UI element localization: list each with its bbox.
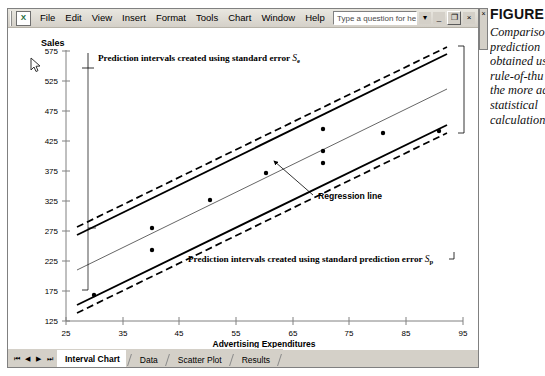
data-point (381, 131, 385, 135)
svg-text:85: 85 (402, 329, 411, 338)
sheet-nav-buttons: ⏮ ◀ ▶ ⏭ (8, 350, 57, 367)
data-point (321, 149, 325, 153)
mouse-cursor-icon (30, 57, 42, 73)
caption-line: the more ac (490, 83, 545, 98)
lower-label-leader (449, 252, 454, 259)
svg-text:35: 35 (119, 329, 128, 338)
menu-item-chart[interactable]: Chart (223, 11, 256, 25)
caption-line: Compariso (490, 25, 545, 40)
excel-app-icon[interactable]: X (16, 11, 31, 26)
svg-text:45: 45 (175, 329, 184, 338)
svg-text:25: 25 (62, 329, 71, 338)
menu-bar-right-group: Type a question for help ▾ _ ❐ × (333, 11, 478, 25)
svg-text:375: 375 (45, 167, 59, 176)
excel-window: X File Edit View Insert Format Tools Cha… (7, 8, 479, 368)
figure-caption: FIGURE Compariso prediction obtained us … (490, 6, 545, 127)
upper-interval-annotation-text: Prediction intervals created using stand… (98, 53, 292, 63)
next-sheet-icon[interactable]: ▶ (33, 352, 44, 365)
data-point (264, 171, 268, 175)
x-axis-ticks: 25 35 45 55 65 75 85 95 (62, 317, 468, 338)
sheet-tab-scatter-plot[interactable]: Scatter Plot (171, 353, 228, 367)
menu-item-window[interactable]: Window (256, 11, 300, 25)
tab-separator (164, 353, 171, 367)
svg-text:575: 575 (45, 47, 59, 56)
sheet-tab-data[interactable]: Data (133, 353, 164, 367)
menu-item-help[interactable]: Help (300, 11, 330, 25)
se-subscript: e (297, 57, 300, 64)
menu-item-tools[interactable]: Tools (191, 11, 223, 25)
chart-sheet-canvas[interactable]: Sales 125 175 225 275 325 375 425 475 52… (8, 28, 478, 348)
tab-bar-filler (283, 349, 478, 367)
restore-window-button[interactable]: ❐ (447, 11, 461, 25)
ask-a-question-input[interactable]: Type a question for help (333, 11, 417, 25)
regression-line (77, 89, 447, 270)
first-sheet-icon[interactable]: ⏮ (11, 352, 22, 365)
sheet-tabs: Interval Chart Data Scatter Plot Results (57, 350, 283, 367)
tab-separator (228, 353, 235, 367)
regression-line-annotation: Regression line (318, 191, 382, 201)
svg-text:55: 55 (232, 329, 241, 338)
sheet-tab-bar: ⏮ ◀ ▶ ⏭ Interval Chart Data Scatter Plot… (8, 348, 478, 367)
close-window-button[interactable]: × (463, 12, 475, 24)
interval-chart-plot[interactable]: Sales 125 175 225 275 325 375 425 475 52… (8, 28, 478, 348)
svg-text:525: 525 (45, 77, 59, 86)
data-point (321, 127, 325, 131)
caption-line: obtained us (490, 54, 545, 69)
svg-text:125: 125 (45, 317, 59, 326)
menu-bar: X File Edit View Insert Format Tools Cha… (8, 9, 478, 28)
menu-item-file[interactable]: File (35, 11, 60, 25)
menu-item-format[interactable]: Format (151, 11, 191, 25)
tab-separator (276, 353, 283, 367)
menu-item-view[interactable]: View (87, 11, 117, 25)
data-point (150, 226, 154, 230)
upper-bracket (88, 68, 96, 228)
svg-text:425: 425 (45, 137, 59, 146)
regression-callout-arrow (274, 161, 313, 195)
data-point (437, 129, 441, 133)
sp-subscript: p (430, 258, 434, 265)
x-axis-title: Advertising Expenditures (213, 339, 316, 348)
svg-text:325: 325 (45, 197, 59, 206)
menu-drag-handle[interactable] (10, 11, 14, 26)
help-dropdown-icon[interactable]: ▾ (419, 12, 431, 24)
screenshot-root: X File Edit View Insert Format Tools Cha… (0, 0, 545, 376)
caption-line: prediction (490, 40, 545, 55)
lower-se-interval-line (77, 125, 447, 305)
minimize-window-button[interactable]: _ (433, 12, 445, 24)
svg-text:75: 75 (345, 329, 354, 338)
lower-interval-annotation-text: Prediction intervals created using stand… (188, 254, 425, 264)
data-point (150, 248, 154, 252)
lower-sp-interval-line (77, 133, 447, 313)
menu-item-edit[interactable]: Edit (60, 11, 86, 25)
caption-line: rule-of-thu (490, 69, 545, 84)
figure-caption-title: FIGURE (490, 6, 545, 22)
data-point (208, 198, 212, 202)
svg-text:95: 95 (459, 329, 468, 338)
upper-interval-annotation: Prediction intervals created using stand… (98, 52, 300, 64)
svg-text:275: 275 (45, 227, 59, 236)
upper-se-interval-line (77, 54, 447, 235)
sheet-tab-interval-chart[interactable]: Interval Chart (57, 350, 126, 367)
stub-close-icon[interactable]: × (480, 9, 487, 18)
svg-text:225: 225 (45, 257, 59, 266)
data-point (321, 161, 325, 165)
svg-text:65: 65 (289, 329, 298, 338)
previous-sheet-icon[interactable]: ◀ (22, 352, 33, 365)
tab-separator (126, 353, 133, 367)
svg-text:175: 175 (45, 287, 59, 296)
upper-sp-interval-line (77, 47, 447, 227)
caption-line: statistical (490, 98, 545, 113)
lower-interval-annotation: Prediction intervals created using stand… (188, 253, 434, 265)
figure-caption-body: Compariso prediction obtained us rule-of… (490, 25, 545, 127)
menu-item-insert[interactable]: Insert (117, 11, 151, 25)
right-bracket (458, 46, 464, 133)
caption-line: calculation (490, 113, 545, 128)
sheet-tab-results[interactable]: Results (235, 353, 276, 367)
svg-text:475: 475 (45, 107, 59, 116)
last-sheet-icon[interactable]: ⏭ (44, 352, 55, 365)
window-close-stub[interactable]: × (479, 8, 488, 50)
data-point (92, 293, 96, 297)
